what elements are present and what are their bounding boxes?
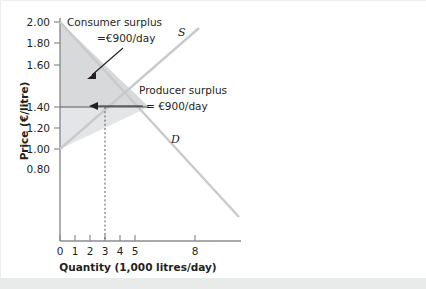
x-tick-label-3: 3 xyxy=(102,245,109,257)
consumer-surplus-label-line1: Consumer surplus xyxy=(67,16,162,28)
consumer-surplus-label-line2: =€900/day xyxy=(97,32,155,44)
y-tick-label-1-00: 1.00 xyxy=(27,143,50,155)
y-tick-label-2-00: 2.00 xyxy=(27,16,50,28)
producer-surplus-label-line1: Producer surplus xyxy=(139,84,227,96)
x-axis-ticks xyxy=(60,235,195,241)
footer-band xyxy=(0,278,426,289)
y-axis-title: Price (€/litre) xyxy=(18,82,30,161)
y-tick-label-0-80: 0.80 xyxy=(27,163,50,175)
y-tick-label-1-40: 1.40 xyxy=(27,101,50,113)
y-axis-ticks xyxy=(54,22,60,149)
x-tick-label-0: 0 xyxy=(57,245,64,257)
x-tick-label-1: 1 xyxy=(72,245,79,257)
x-axis-title: Quantity (1,000 litres/day) xyxy=(59,261,216,273)
x-tick-label-8: 8 xyxy=(192,245,199,257)
x-tick-label-4: 4 xyxy=(117,245,124,257)
y-tick-label-1-80: 1.80 xyxy=(27,37,50,49)
figure-card: 2.00 1.80 1.60 1.40 1.20 1.00 0.80 0 1 2… xyxy=(0,0,426,278)
demand-curve-label: D xyxy=(170,133,180,146)
economics-surplus-chart: 2.00 1.80 1.60 1.40 1.20 1.00 0.80 0 1 2… xyxy=(1,1,426,279)
x-tick-label-2: 2 xyxy=(87,245,94,257)
x-tick-label-5: 5 xyxy=(132,245,139,257)
supply-curve-label: S xyxy=(178,26,186,39)
y-tick-label-1-60: 1.60 xyxy=(27,59,50,71)
y-tick-label-1-20: 1.20 xyxy=(27,122,50,134)
producer-surplus-label-line2: = €900/day xyxy=(146,100,208,112)
